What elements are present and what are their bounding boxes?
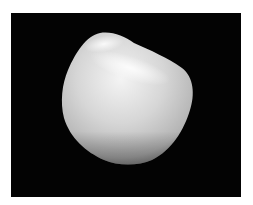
stone-shadow (62, 33, 193, 165)
stone-image (0, 0, 253, 205)
